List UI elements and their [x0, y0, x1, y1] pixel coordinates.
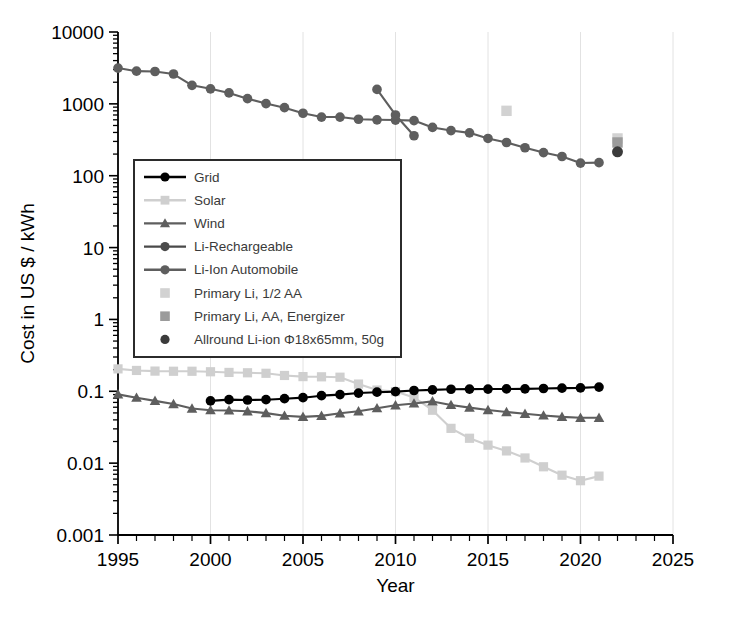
data-point	[594, 158, 604, 168]
legend-marker	[160, 265, 169, 274]
legend-label: Li-Ion Automobile	[194, 262, 298, 277]
x-axis-title: Year	[376, 575, 415, 596]
legend-marker	[160, 242, 169, 251]
data-point	[280, 394, 290, 404]
data-point	[261, 369, 270, 378]
data-point	[465, 434, 474, 443]
series-allround-li-ion-18x65mm-50g	[612, 146, 623, 157]
legend-label: Primary Li, AA, Energizer	[194, 309, 345, 324]
data-point	[243, 94, 253, 104]
legend-label: Allround Li-ion Φ18x65mm, 50g	[194, 332, 384, 347]
y-tick-label: 0.1	[78, 381, 104, 402]
legend: GridSolarWindLi-RechargeableLi-Ion Autom…	[134, 160, 401, 357]
y-tick-label: 10000	[51, 22, 104, 43]
data-point	[224, 368, 233, 377]
y-tick-label: 10	[83, 238, 104, 259]
data-point	[335, 373, 344, 382]
data-point	[502, 384, 512, 394]
data-point	[169, 367, 178, 376]
data-point	[409, 131, 419, 141]
data-point	[428, 123, 438, 133]
x-tick-label: 2010	[374, 549, 416, 570]
series-primary-li-aa-energizer	[612, 137, 622, 147]
data-point	[280, 371, 289, 380]
data-point	[594, 472, 603, 481]
data-point	[483, 441, 492, 450]
data-point	[520, 453, 529, 462]
data-point	[539, 384, 549, 394]
cost-per-kwh-log-chart: 1000010001001010.10.010.0011995200020052…	[0, 0, 729, 619]
data-point	[465, 384, 475, 394]
y-tick-label: 0.01	[67, 453, 104, 474]
legend-marker	[160, 335, 169, 344]
data-point	[372, 387, 382, 397]
data-point	[501, 106, 511, 116]
legend-item-allround-li-ion-18x65mm-50g[interactable]: Allround Li-ion Φ18x65mm, 50g	[160, 332, 384, 347]
y-axis-title: Cost in US $ / kWh	[17, 203, 38, 364]
data-point	[428, 406, 437, 415]
legend-marker	[161, 196, 170, 205]
data-point	[612, 137, 622, 147]
data-point	[113, 63, 123, 73]
x-tick-label: 2015	[467, 549, 509, 570]
data-point	[446, 126, 456, 136]
x-tick-label: 2025	[652, 549, 694, 570]
data-point	[206, 367, 215, 376]
data-point	[576, 158, 586, 168]
x-tick-label: 2020	[559, 549, 601, 570]
data-point	[187, 367, 196, 376]
y-tick-label: 100	[72, 166, 104, 187]
data-point	[576, 383, 586, 393]
data-point	[372, 85, 382, 95]
data-point	[150, 366, 159, 375]
data-point	[409, 116, 419, 126]
data-point	[576, 476, 585, 485]
data-point	[446, 384, 456, 394]
data-point	[612, 146, 623, 157]
data-point	[243, 368, 252, 377]
x-tick-label: 2000	[189, 549, 231, 570]
y-tick-label: 0.001	[56, 525, 104, 546]
data-point	[557, 383, 567, 393]
legend-marker	[160, 311, 170, 321]
data-point	[409, 386, 419, 396]
data-point	[298, 372, 307, 381]
data-point	[243, 395, 253, 405]
data-point	[354, 388, 364, 398]
data-point	[520, 384, 530, 394]
data-point	[132, 66, 142, 76]
data-point	[465, 128, 475, 138]
legend-label: Solar	[194, 193, 226, 208]
legend-label: Grid	[194, 170, 220, 185]
data-point	[169, 69, 179, 79]
legend-label: Primary Li, 1/2 AA	[194, 286, 302, 301]
data-point	[261, 395, 271, 405]
data-point	[298, 108, 308, 118]
data-point	[391, 110, 401, 120]
data-point	[132, 366, 141, 375]
chart-container: 1000010001001010.10.010.0011995200020052…	[0, 0, 729, 619]
legend-label: Li-Rechargeable	[194, 239, 293, 254]
data-point	[335, 390, 345, 400]
data-point	[446, 424, 455, 433]
data-point	[187, 81, 197, 91]
y-tick-label: 1	[93, 309, 104, 330]
data-point	[372, 115, 382, 125]
data-point	[483, 134, 493, 144]
x-tick-label: 2005	[282, 549, 324, 570]
data-point	[354, 379, 363, 388]
data-point	[298, 393, 308, 403]
data-point	[280, 103, 290, 113]
y-tick-label: 1000	[62, 94, 104, 115]
data-point	[354, 114, 364, 124]
data-point	[317, 391, 327, 401]
data-point	[206, 84, 216, 94]
data-point	[113, 364, 122, 373]
data-point	[261, 99, 271, 109]
legend-marker	[160, 288, 170, 298]
data-point	[520, 143, 530, 153]
data-point	[317, 372, 326, 381]
data-point	[150, 67, 160, 77]
data-point	[317, 112, 327, 122]
data-point	[224, 395, 234, 405]
